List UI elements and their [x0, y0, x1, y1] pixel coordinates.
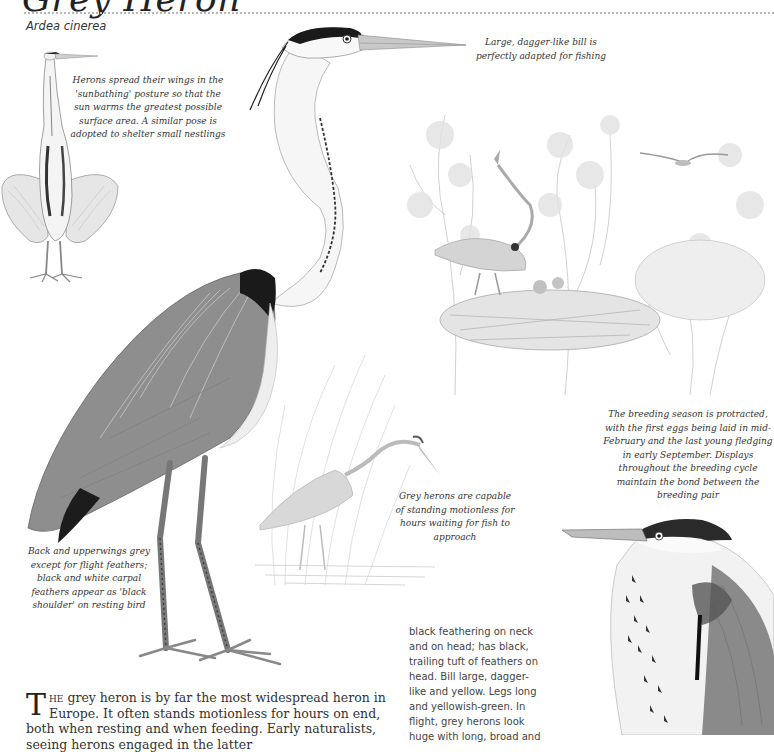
- description-column: black feathering on neck and on head; ha…: [409, 624, 579, 744]
- intro-text: grey heron is by far the most widespread…: [26, 690, 386, 752]
- page-title: Grey Heron: [22, 0, 241, 19]
- intro-paragraph: The grey heron is by far the most widesp…: [26, 690, 396, 752]
- wading-heron-illustration: [245, 345, 445, 590]
- nest-scene-illustration: [400, 95, 774, 405]
- breeding-caption: The breeding season is protracted, with …: [598, 408, 774, 503]
- title-divider: [24, 12, 774, 14]
- description-line: like and yellow. Legs long: [409, 684, 579, 699]
- description-line: black feathering on neck: [409, 624, 579, 639]
- description-line: trailing tuft of feathers on: [409, 654, 579, 669]
- bill-caption: Large, dagger-like bill is perfectly ada…: [466, 36, 616, 63]
- standing-caption: Grey herons are capable of standing moti…: [395, 490, 515, 544]
- description-line: and yellowish-green. In: [409, 699, 579, 714]
- description-line: head. Bill large, dagger-: [409, 669, 579, 684]
- description-line: flight, grey herons look: [409, 714, 579, 729]
- back-plumage-caption: Back and upperwings grey except for flig…: [24, 545, 154, 613]
- smallcaps-lead: he: [49, 690, 63, 705]
- drop-cap: T: [26, 692, 46, 718]
- head-portrait-illustration: [562, 505, 774, 735]
- description-line: huge with long, broad and: [409, 729, 579, 744]
- description-line: and on head; has black,: [409, 639, 579, 654]
